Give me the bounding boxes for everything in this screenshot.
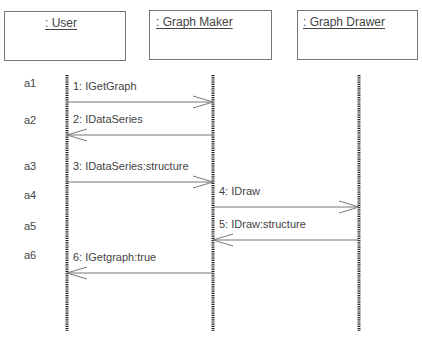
step-label: a3 [24, 160, 36, 172]
step-label: a1 [24, 77, 36, 89]
step-label: a2 [24, 114, 36, 126]
message-2: 2: IDataSeriesa2 [24, 113, 213, 141]
message-label: 2: IDataSeries [73, 113, 143, 125]
message-3: 3: IDataSeries:structurea3 [24, 160, 213, 188]
message-label: 4: IDraw [219, 185, 260, 197]
message-label: 6: IGetgraph:true [73, 251, 156, 263]
message-5: 5: IDraw:structurea5 [24, 218, 359, 246]
message-label: 1: IGetGraph [73, 80, 137, 92]
step-label: a5 [24, 220, 36, 232]
message-6: 6: IGetgraph:truea6 [24, 249, 213, 279]
message-4: 4: IDrawa4 [24, 185, 359, 213]
message-label: 5: IDraw:structure [219, 218, 306, 230]
sequence-diagram: 1: IGetGrapha12: IDataSeriesa23: IDataSe… [0, 0, 422, 337]
message-1: 1: IGetGrapha1 [24, 77, 213, 108]
step-label: a6 [24, 249, 36, 261]
step-label: a4 [24, 189, 36, 201]
message-label: 3: IDataSeries:structure [73, 160, 189, 172]
